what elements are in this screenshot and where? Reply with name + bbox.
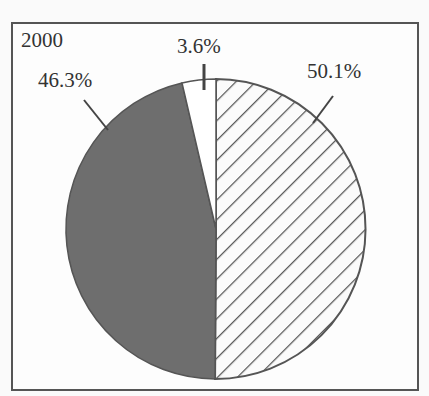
leader-line-c bbox=[84, 100, 108, 130]
leader-line-a bbox=[313, 96, 333, 123]
label-b: 3.6% bbox=[177, 34, 221, 59]
label-a: 50.1% bbox=[307, 59, 361, 84]
slice-hatched bbox=[215, 79, 365, 379]
chart-title: 2000 bbox=[21, 28, 63, 53]
pie-chart bbox=[0, 0, 429, 396]
label-c: 46.3% bbox=[38, 68, 92, 93]
